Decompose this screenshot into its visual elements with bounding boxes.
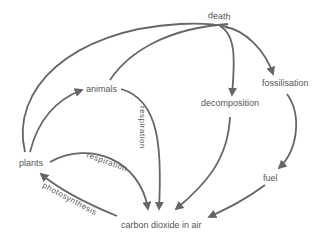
node-animals: animals (86, 84, 118, 94)
node-carbon-dioxide-in-air: carbon dioxide in air (121, 220, 202, 230)
node-death: death (208, 10, 231, 22)
node-fuel: fuel (263, 173, 278, 183)
edge-decomposition-to-carbon-dioxide (176, 117, 230, 209)
label-photosynthesis: photosynthesis (41, 181, 99, 217)
edge-plants-to-death (23, 24, 228, 152)
edge-fuel-to-carbon-dioxide (209, 185, 265, 217)
node-plants: plants (19, 158, 44, 168)
edge-fossilisation-to-fuel (279, 94, 296, 168)
edge-death-to-decomposition (220, 26, 234, 95)
diagram-canvas: death animals decomposition fossilisatio… (0, 0, 322, 235)
label-plants-respiration: respiration (85, 150, 128, 173)
node-decomposition: decomposition (201, 98, 259, 108)
carbon-cycle-diagram: death animals decomposition fossilisatio… (0, 0, 322, 235)
label-animals-respiration: respiration (138, 106, 147, 149)
node-fossilisation: fossilisation (262, 78, 309, 88)
edge-carbon-dioxide-to-plants (41, 174, 117, 216)
edge-plants-to-animals (30, 90, 82, 152)
